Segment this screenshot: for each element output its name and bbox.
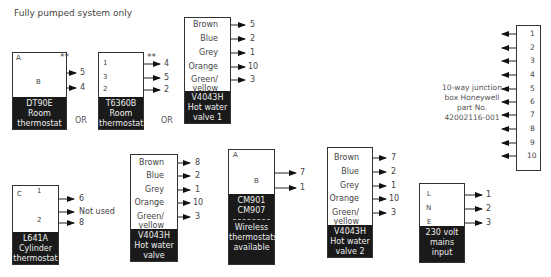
t6360b-label: T6360B Room thermostat (99, 97, 143, 129)
valve-to: 8 (195, 158, 200, 167)
valve-wire-green: Green/ (137, 212, 164, 221)
mains-label: 230 volt mains input (420, 226, 464, 262)
valve-to: 3 (195, 212, 200, 221)
valve2-to: 3 (391, 208, 396, 217)
valve-wire-blue: Blue (146, 171, 164, 180)
dt90e-output-4: 4 (80, 83, 85, 92)
junction-terminal: 10 (527, 151, 537, 160)
t6360b-output-4: 4 (164, 59, 169, 68)
valve2-wire-green: Green/ (332, 208, 359, 217)
valve1-wire-brown: Brown (193, 20, 218, 29)
mains-output-3: 3 (486, 218, 491, 227)
valve2-wire-orange: Orange (329, 194, 359, 203)
double-star-note: ** (60, 52, 69, 62)
junction-terminal: 6 (530, 97, 535, 106)
mains-terminal-e: E (427, 218, 431, 226)
l641a-terminal-1: 1 (37, 187, 41, 195)
valve-to: 1 (195, 185, 200, 194)
junction-terminal: 7 (530, 110, 535, 119)
valve2-wire-grey: Grey (340, 181, 359, 190)
junction-box-description: 10-way junction box Honeywell part No. 4… (432, 83, 512, 123)
valve2-to: 2 (391, 167, 396, 176)
valve2-label: V4043H Hot water valve 2 (328, 225, 372, 257)
valve1-to: 3 (250, 75, 255, 84)
dt90e-room-thermostat: DT90E Room thermostat (12, 52, 67, 130)
mains-input: 230 volt mains input (419, 183, 465, 263)
dt90e-terminal-b: B (36, 78, 41, 86)
valve-wire-grey: Grey (145, 185, 164, 194)
valve-label: V4043H Hot water valve (131, 229, 177, 261)
mains-output-1: 1 (486, 190, 491, 199)
valve-wire-orange: Orange (134, 198, 164, 207)
valve-wire-brown: Brown (139, 158, 164, 167)
or-label: OR (161, 116, 173, 125)
valve2-to: 7 (391, 153, 396, 162)
valve-to: 2 (195, 171, 200, 180)
l641a-label: L641A Cylinder thermostat (13, 232, 58, 264)
valve1-wire-grey: Grey (199, 48, 218, 57)
valve1-wire-yellow: yellow (192, 84, 218, 93)
valve2-wire-brown: Brown (334, 153, 359, 162)
junction-terminal: 8 (530, 124, 535, 133)
valve1-wire-green: Green/ (191, 75, 218, 84)
l641a-terminal-c: C (17, 190, 22, 198)
dt90e-label: DT90E Room thermostat (13, 97, 66, 129)
junction-terminal: 9 (530, 138, 535, 147)
t6360b-terminal-3: 3 (103, 73, 107, 81)
valve2-to: 1 (391, 181, 396, 190)
cm901-output-7: 7 (300, 168, 305, 177)
l641a-output-6: 6 (79, 194, 84, 203)
mains-terminal-n: N (426, 204, 431, 212)
t6360b-output-5: 5 (164, 73, 169, 82)
valve2-to: 10 (389, 194, 399, 203)
mains-terminal-l: L (427, 190, 431, 198)
junction-terminal: 2 (530, 43, 535, 52)
junction-terminal: 5 (530, 84, 535, 93)
valve2-wire-blue: Blue (341, 167, 359, 176)
valve1-to: 2 (250, 34, 255, 43)
valve1-to: 10 (248, 62, 258, 71)
junction-terminal: 3 (530, 56, 535, 65)
valve-wire-yellow: yellow (138, 221, 164, 230)
valve-to: 10 (193, 198, 203, 207)
valve1-to: 5 (250, 20, 255, 29)
junction-terminal: 1 (530, 29, 535, 38)
cm901-label: CM901 CM907 Wireless thermostats availab… (229, 194, 274, 264)
valve1-wire-blue: Blue (200, 34, 218, 43)
l641a-output-not-used: Not used (79, 207, 115, 216)
dt90e-output-5: 5 (80, 68, 85, 77)
double-star-note: ** (147, 52, 156, 62)
l641a-output-8: 8 (79, 218, 84, 227)
cm901-terminal-b: B (254, 177, 259, 185)
t6360b-terminal-1: 1 (103, 59, 107, 67)
cm901-cm907-thermostat: CM901 CM907 Wireless thermostats availab… (228, 149, 275, 265)
or-label: OR (75, 116, 87, 125)
cm901-output-1: 1 (300, 183, 305, 192)
junction-terminal: 4 (530, 70, 535, 79)
mains-output-2: 2 (486, 204, 491, 213)
l641a-terminal-2: 2 (37, 216, 41, 224)
valve2-wire-yellow: yellow (333, 217, 359, 226)
divider (233, 219, 270, 220)
dt90e-terminal-a: A (16, 54, 21, 62)
valve1-wire-orange: Orange (188, 62, 218, 71)
cm901-terminal-a: A (233, 151, 238, 159)
valve1-label: V4043H Hot water valve 1 (185, 91, 230, 123)
t6360b-terminal-2: 2 (103, 85, 107, 93)
t6360b-output-2: 2 (164, 85, 169, 94)
junction-box (516, 25, 541, 171)
valve1-to: 1 (250, 48, 255, 57)
